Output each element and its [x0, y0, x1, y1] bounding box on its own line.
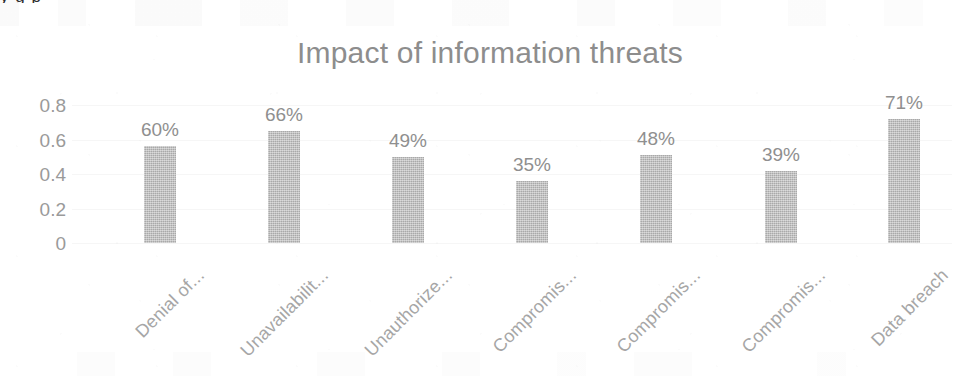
x-axis-tick-label: Compromis...	[613, 265, 705, 357]
x-axis-tick-label: Unavailabilit...	[236, 265, 332, 361]
bar	[640, 155, 672, 243]
x-axis-tick-label: Denial of...	[131, 265, 208, 342]
x-axis: Denial of...Unavailabilit...Unauthorize.…	[0, 243, 961, 363]
bar	[888, 119, 920, 243]
bar-value-label: 49%	[373, 131, 443, 150]
bar	[516, 181, 548, 243]
bar-value-label: 39%	[746, 145, 816, 164]
y-axis: 0.80.60.40.20	[20, 100, 66, 252]
gridline	[72, 174, 952, 175]
bar-value-label: 71%	[869, 93, 939, 112]
x-axis-tick-label: Compromis...	[489, 265, 581, 357]
gridline	[72, 105, 952, 106]
y-axis-tick-label: 0.2	[20, 200, 66, 219]
bar	[765, 171, 797, 243]
bar	[392, 157, 424, 243]
y-axis-tick-label: 0.8	[20, 96, 66, 115]
bar-value-label: 35%	[497, 155, 567, 174]
gridline	[72, 140, 952, 141]
bar-value-label: 66%	[249, 105, 319, 124]
bar	[268, 131, 300, 243]
gridline	[72, 209, 952, 210]
bar-value-label: 48%	[621, 129, 691, 148]
x-axis-tick-label: Unauthorize...	[361, 265, 457, 361]
y-axis-tick-label: 0.6	[20, 131, 66, 150]
bar-value-label: 60%	[125, 120, 195, 139]
y-axis-tick-label: 0.4	[20, 165, 66, 184]
plot-area: 60%66%49%35%48%39%71%	[72, 105, 952, 243]
x-axis-tick-label: Compromis...	[738, 265, 830, 357]
bar-chart: Impact of information threats 0.80.60.40…	[0, 0, 961, 381]
x-axis-tick-label: Data breach	[867, 265, 953, 351]
bar	[144, 146, 176, 243]
chart-title: Impact of information threats	[180, 36, 800, 70]
